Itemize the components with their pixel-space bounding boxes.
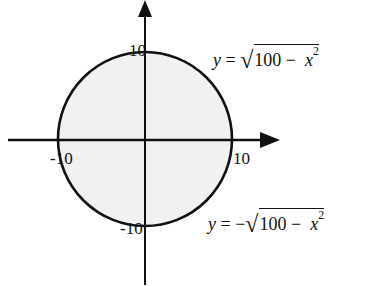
eq-lower-lhs: y — [208, 214, 216, 234]
eq-lower-var: x — [310, 214, 318, 234]
eq-lower-minus: − — [286, 214, 305, 234]
sqrt-icon: √ — [245, 211, 258, 237]
x-right-label: 10 — [233, 150, 250, 167]
eq-upper-radicand: 100 — [254, 50, 281, 70]
upper-semicircle-equation: y = √100 − x2 — [213, 44, 319, 70]
y-bottom-label: -10 — [120, 220, 143, 237]
lower-semicircle-equation: y = −√100 − x2 — [208, 208, 324, 234]
eq-upper-var: x — [305, 50, 313, 70]
sqrt-icon: √ — [240, 47, 253, 73]
eq-upper-lhs: y — [213, 50, 221, 70]
y-top-label: 10 — [129, 42, 146, 59]
eq-lower-sign: − — [235, 214, 245, 234]
circle-graph — [0, 0, 386, 286]
y-axis-arrow-icon — [138, 0, 152, 17]
x-left-label: -10 — [50, 150, 73, 167]
x-axis-arrow-icon — [260, 132, 280, 148]
eq-upper-minus: − — [281, 50, 300, 70]
eq-lower-equals: = — [216, 214, 235, 234]
eq-lower-radicand: 100 — [259, 214, 286, 234]
eq-upper-exp: 2 — [313, 44, 319, 58]
eq-upper-equals: = — [221, 50, 240, 70]
eq-lower-exp: 2 — [318, 208, 324, 222]
